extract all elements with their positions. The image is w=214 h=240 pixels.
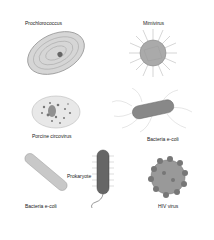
prokaryote-illustration	[88, 148, 118, 208]
hiv-virus-label: HIV virus	[158, 203, 178, 209]
prochlorococcus-label: Prochlorococcus	[25, 20, 62, 26]
ecoli-flagellated-label: Bacteria e-coli	[147, 136, 179, 142]
porcine-circovirus-label: Porcine circovirus	[32, 133, 71, 139]
prochlorococcus-illustration	[22, 28, 90, 78]
porcine-circovirus-illustration	[30, 93, 82, 131]
ecoli-flagellated-illustration	[112, 88, 192, 133]
hiv-virus-illustration	[146, 155, 190, 199]
mimivirus-illustration	[128, 28, 178, 78]
ecoli-rod-label: Bacteria e-coli	[25, 203, 57, 209]
ecoli-rod-illustration	[20, 150, 72, 195]
mimivirus-label: Mimivirus	[143, 20, 164, 26]
